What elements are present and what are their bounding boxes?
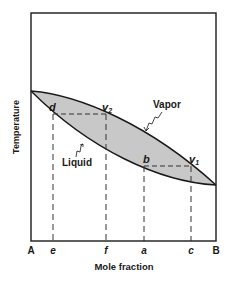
vapor-label: Vapor (153, 99, 181, 110)
point-label-b: b (143, 153, 150, 165)
x-marker-f: f (104, 245, 109, 256)
x-endpoint-B: B (212, 245, 219, 256)
point-label-d: d (49, 101, 56, 113)
x-endpoint-A: A (27, 245, 34, 256)
x-marker-e: e (50, 245, 56, 256)
y-axis-label: Temperature (11, 100, 21, 154)
x-marker-c: c (188, 245, 194, 256)
x-marker-a: a (141, 245, 147, 256)
point-label-v2: v2 (102, 101, 112, 114)
two-phase-region (31, 91, 216, 185)
liquid-leader (76, 144, 83, 157)
x-axis-label: Mole fraction (94, 261, 153, 272)
phase-diagram: d v2 b v1 Vapor Liquid Temperature A e f… (0, 0, 230, 281)
liquid-label: Liquid (62, 157, 92, 168)
point-label-v1: v1 (189, 153, 199, 166)
